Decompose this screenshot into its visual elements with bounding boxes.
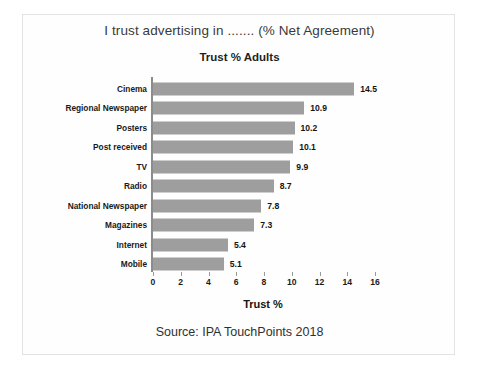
bar-value-label: 7.8 [267, 201, 279, 211]
x-axis-title: Trust % [151, 298, 375, 310]
x-tick-label: 8 [252, 277, 276, 287]
x-tick-label: 4 [197, 277, 221, 287]
bar-value-label: 14.5 [360, 84, 377, 94]
bar-row: Regional Newspaper10.9 [23, 99, 456, 119]
bar[interactable] [153, 160, 290, 173]
bar-row: Magazines7.3 [23, 216, 456, 236]
x-tick-mark [347, 272, 348, 276]
plot-area: Cinema14.5Regional Newspaper10.9Posters1… [23, 15, 456, 356]
bar-value-label: 5.1 [230, 259, 242, 269]
category-label: Radio [23, 181, 147, 191]
bar[interactable] [153, 180, 274, 193]
bar[interactable] [153, 219, 254, 232]
category-label: Internet [23, 240, 147, 250]
bar[interactable] [153, 141, 293, 154]
bar-row: Posters10.2 [23, 118, 456, 138]
x-tick-mark [209, 272, 210, 276]
bar[interactable] [153, 82, 354, 95]
x-tick-label: 16 [363, 277, 387, 287]
x-tick-mark [236, 272, 237, 276]
bar-value-label: 7.3 [260, 220, 272, 230]
category-label: TV [23, 162, 147, 172]
x-tick-mark [181, 272, 182, 276]
bar-value-label: 10.1 [299, 142, 316, 152]
x-tick-label: 6 [224, 277, 248, 287]
source-note: Source: IPA TouchPoints 2018 [23, 325, 456, 339]
bar-value-label: 10.2 [301, 123, 318, 133]
bar[interactable] [153, 121, 295, 134]
bar-row: Internet5.4 [23, 235, 456, 255]
bar-value-label: 5.4 [234, 240, 246, 250]
bar-row: National Newspaper7.8 [23, 196, 456, 216]
bar[interactable] [153, 102, 304, 115]
x-tick-label: 10 [280, 277, 304, 287]
category-label: Magazines [23, 220, 147, 230]
category-label: Posters [23, 123, 147, 133]
bar[interactable] [153, 258, 224, 271]
x-tick-mark [153, 272, 154, 276]
category-label: National Newspaper [23, 201, 147, 211]
bar-value-label: 9.9 [296, 162, 308, 172]
bar-row: TV9.9 [23, 157, 456, 177]
bar[interactable] [153, 199, 261, 212]
category-label: Regional Newspaper [23, 103, 147, 113]
x-tick-mark [264, 272, 265, 276]
bar-row: Mobile5.1 [23, 255, 456, 275]
x-tick-mark [320, 272, 321, 276]
x-tick-mark [375, 272, 376, 276]
x-tick-label: 14 [335, 277, 359, 287]
category-label: Mobile [23, 259, 147, 269]
x-tick-label: 2 [169, 277, 193, 287]
bar-row: Post received10.1 [23, 138, 456, 158]
bar-row: Cinema14.5 [23, 79, 456, 99]
category-label: Post received [23, 142, 147, 152]
bar-value-label: 8.7 [280, 181, 292, 191]
bar-row: Radio8.7 [23, 177, 456, 197]
chart-card: I trust advertising in ....... (% Net Ag… [22, 14, 455, 355]
bar[interactable] [153, 238, 228, 251]
x-tick-mark [292, 272, 293, 276]
category-label: Cinema [23, 84, 147, 94]
x-tick-label: 0 [141, 277, 165, 287]
x-tick-label: 12 [308, 277, 332, 287]
bar-value-label: 10.9 [310, 103, 327, 113]
